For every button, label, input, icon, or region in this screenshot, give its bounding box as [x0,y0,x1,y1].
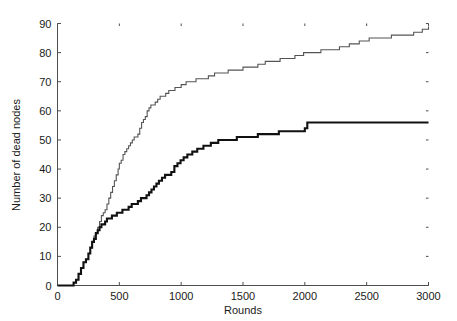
line-chart-canvas: 050010001500200025003000 010203040506070… [0,0,457,321]
x-tick-label: 1000 [169,290,193,302]
x-tick-label: 1500 [231,290,255,302]
y-tick-label: 20 [39,221,51,233]
y-tick-label: 10 [39,250,51,262]
y-tick-label: 50 [39,134,51,146]
y-tick-label: 80 [39,47,51,59]
y-tick-label: 90 [39,18,51,30]
y-tick-label: 40 [39,163,51,175]
y-tick-label: 70 [39,76,51,88]
x-axis-title: Rounds [224,304,262,316]
y-axis-title: Number of dead nodes [10,99,22,211]
x-tick-label: 0 [54,290,60,302]
x-tick-label: 3000 [416,290,440,302]
y-tick-label: 0 [45,280,51,292]
plot-background [0,0,457,321]
chart-figure: 050010001500200025003000 010203040506070… [0,0,457,321]
x-tick-label: 2000 [293,290,317,302]
y-tick-label: 60 [39,105,51,117]
x-tick-label: 2500 [354,290,378,302]
y-tick-label: 30 [39,192,51,204]
x-tick-label: 500 [110,290,128,302]
